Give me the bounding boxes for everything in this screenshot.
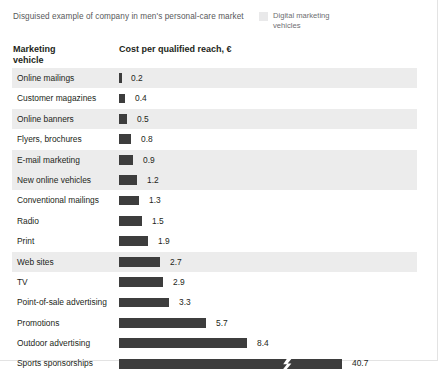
row-label-vehicle: Conventional mailings — [17, 190, 99, 210]
row-label-vehicle: Sports sponsorships — [17, 353, 93, 373]
bar-cell: 0.5 — [119, 109, 417, 129]
bar-value-label: 1.5 — [152, 211, 164, 231]
bar-cell: 8.4 — [119, 333, 417, 353]
bar — [119, 338, 247, 348]
bar-value-label: 8.4 — [257, 333, 269, 353]
bar — [119, 73, 122, 83]
bar — [119, 318, 206, 328]
bar — [119, 359, 342, 369]
bar-rows: Online mailings0.2Customer magazines0.4O… — [12, 68, 417, 373]
exhibit-card: Disguised example of company in men's pe… — [0, 0, 438, 361]
bar-cell: 1.2 — [119, 170, 417, 190]
bar-value-label: 40.7 — [352, 353, 368, 373]
row-label-vehicle: E-mail marketing — [17, 150, 80, 170]
bar — [119, 298, 169, 308]
row-label-vehicle: Promotions — [17, 313, 59, 333]
column-header-vehicle-line2: vehicle — [13, 55, 44, 65]
bar-cell: 2.9 — [119, 272, 417, 292]
bar-value-label: 1.9 — [158, 231, 170, 251]
bar-cell: 5.7 — [119, 313, 417, 333]
bar-value-label: 1.3 — [149, 190, 161, 210]
bar-value-label: 2.7 — [170, 252, 182, 272]
table-row: Promotions5.7 — [12, 313, 417, 333]
bar-value-label: 0.2 — [131, 68, 143, 88]
bar-cell: 40.7 — [119, 353, 417, 373]
bar-cell: 1.3 — [119, 190, 417, 210]
bar — [119, 155, 133, 165]
bar — [119, 134, 131, 144]
bar-cell: 2.7 — [119, 252, 417, 272]
column-header-cost: Cost per qualified reach, € — [119, 44, 232, 55]
row-label-vehicle: Online mailings — [17, 68, 74, 88]
exhibit-header: Disguised example of company in men's pe… — [13, 11, 425, 41]
table-row: Point-of-sale advertising3.3 — [12, 292, 417, 312]
bar-cell: 0.8 — [119, 129, 417, 149]
table-row: Customer magazines0.4 — [12, 88, 417, 108]
row-label-vehicle: TV — [17, 272, 28, 292]
table-row: Sports sponsorships40.7 — [12, 353, 417, 373]
bar-value-label: 2.9 — [173, 272, 185, 292]
bar — [119, 216, 142, 226]
table-row: Conventional mailings1.3 — [12, 190, 417, 210]
bar-value-label: 0.9 — [143, 150, 155, 170]
row-label-vehicle: Print — [17, 231, 34, 251]
column-header-vehicle-line1: Marketing — [13, 44, 56, 54]
bar — [119, 277, 163, 287]
table-row: Web sites2.7 — [12, 252, 417, 272]
bar-value-label: 1.2 — [147, 170, 159, 190]
table-row: Print1.9 — [12, 231, 417, 251]
bar — [119, 94, 125, 104]
table-row: Online mailings0.2 — [12, 68, 417, 88]
bar-value-label: 3.3 — [179, 292, 191, 312]
table-row: Online banners0.5 — [12, 109, 417, 129]
table-row: Flyers, brochures0.8 — [12, 129, 417, 149]
row-label-vehicle: Web sites — [17, 252, 54, 272]
row-label-vehicle: Flyers, brochures — [17, 129, 82, 149]
bar-cell: 1.5 — [119, 211, 417, 231]
row-label-vehicle: Outdoor advertising — [17, 333, 90, 353]
table-row: TV2.9 — [12, 272, 417, 292]
row-label-vehicle: Point-of-sale advertising — [17, 292, 107, 312]
table-row: E-mail marketing0.9 — [12, 150, 417, 170]
bar-cell: 0.2 — [119, 68, 417, 88]
row-label-vehicle: Online banners — [17, 109, 74, 129]
row-label-vehicle: Customer magazines — [17, 88, 96, 108]
bar — [119, 114, 127, 124]
bar-cell: 0.9 — [119, 150, 417, 170]
bar — [119, 236, 148, 246]
column-header-vehicle: Marketing vehicle — [13, 44, 113, 66]
row-label-vehicle: Radio — [17, 211, 39, 231]
chart-legend: Digital marketing vehicles — [259, 11, 357, 30]
bar — [119, 196, 139, 206]
table-row: Outdoor advertising8.4 — [12, 333, 417, 353]
legend-label-digital: Digital marketing vehicles — [273, 11, 357, 30]
bar-value-label: 5.7 — [216, 313, 228, 333]
table-row: New online vehicles1.2 — [12, 170, 417, 190]
bar — [119, 257, 160, 267]
bar-value-label: 0.5 — [137, 109, 149, 129]
column-headers: Marketing vehicle Cost per qualified rea… — [13, 44, 425, 68]
bar — [119, 175, 137, 185]
bar-value-label: 0.8 — [141, 129, 153, 149]
bar-cell: 1.9 — [119, 231, 417, 251]
bar-value-label: 0.4 — [135, 88, 147, 108]
exhibit-subtitle: Disguised example of company in men's pe… — [13, 11, 244, 22]
digital-marketing-swatch — [259, 12, 268, 21]
row-label-vehicle: New online vehicles — [17, 170, 91, 190]
bar-cell: 0.4 — [119, 88, 417, 108]
table-row: Radio1.5 — [12, 211, 417, 231]
bar-cell: 3.3 — [119, 292, 417, 312]
